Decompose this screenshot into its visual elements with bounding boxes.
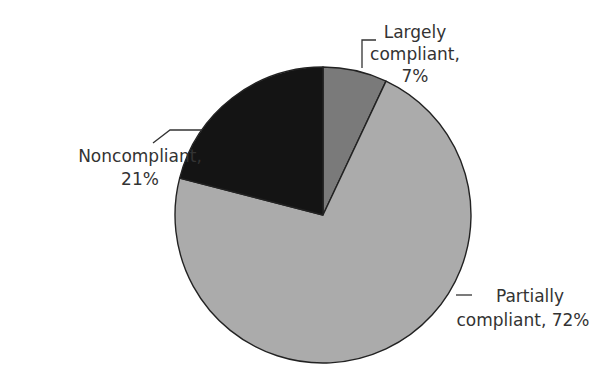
svg-text:Largely: Largely xyxy=(384,22,447,42)
label-partially-compliant: Partially compliant, 72% xyxy=(457,286,590,330)
svg-text:21%: 21% xyxy=(121,169,159,189)
svg-text:compliant, 72%: compliant, 72% xyxy=(457,310,590,330)
svg-text:Partially: Partially xyxy=(496,286,564,306)
label-largely-compliant: Largely compliant, 7% xyxy=(370,22,460,86)
svg-text:7%: 7% xyxy=(402,66,429,86)
svg-text:compliant,: compliant, xyxy=(370,44,460,64)
pie-chart: Largely compliant, 7% Noncompliant, 21% … xyxy=(0,0,602,389)
pie-slices xyxy=(175,67,471,363)
svg-text:Noncompliant,: Noncompliant, xyxy=(78,146,202,166)
